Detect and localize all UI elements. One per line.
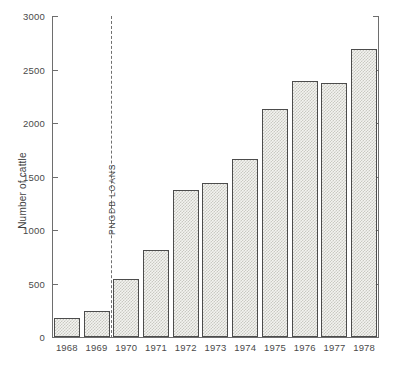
bar-1978 xyxy=(351,49,377,337)
bar-slot xyxy=(290,16,320,337)
y-tick-label: 500 xyxy=(0,278,45,289)
y-tick-label: 2000 xyxy=(0,118,45,129)
bar-1971 xyxy=(143,250,169,337)
y-tick-mark xyxy=(53,337,58,338)
bar-1976 xyxy=(292,81,318,337)
cattle-bar-chart: Number of cattle 05001000150020002500300… xyxy=(0,0,395,370)
bar-slot xyxy=(141,16,171,337)
plot-area xyxy=(52,16,379,337)
bar-slot xyxy=(260,16,290,337)
bar-slot xyxy=(320,16,350,337)
bar-1968 xyxy=(54,318,80,337)
y-tick-label: 1000 xyxy=(0,225,45,236)
y-tick-label: 1500 xyxy=(0,171,45,182)
bar-1973 xyxy=(202,183,228,337)
pngdb-loans-label: PNGDB LOANS xyxy=(107,164,117,235)
bar-slot xyxy=(201,16,231,337)
bar-slot xyxy=(349,16,379,337)
y-tick-label: 0 xyxy=(0,332,45,343)
x-tick-label-1978: 1978 xyxy=(344,342,384,353)
x-axis-baseline xyxy=(52,337,379,338)
bar-1972 xyxy=(173,190,199,337)
bar-slot xyxy=(52,16,82,337)
y-tick-mark-right xyxy=(373,337,378,338)
bar-1970 xyxy=(113,279,139,337)
bar-slot xyxy=(230,16,260,337)
y-tick-label: 3000 xyxy=(0,11,45,22)
bar-1969 xyxy=(84,311,110,337)
bar-1975 xyxy=(262,109,288,337)
bar-1974 xyxy=(232,159,258,337)
bar-slot xyxy=(171,16,201,337)
bar-1977 xyxy=(321,83,347,337)
y-tick-label: 2500 xyxy=(0,64,45,75)
